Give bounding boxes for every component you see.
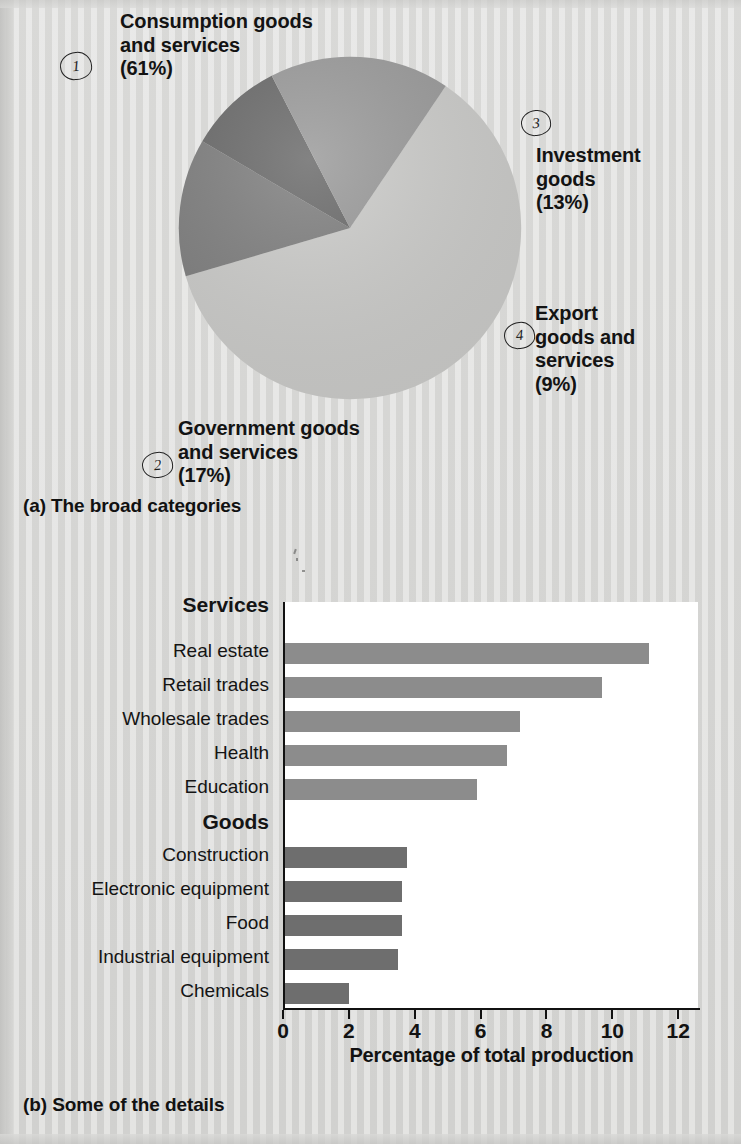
x-tick <box>480 1010 482 1019</box>
bar <box>283 915 402 936</box>
category-label: Real estate <box>173 640 277 662</box>
scan-speck <box>296 558 298 561</box>
pie-chart <box>178 56 523 401</box>
panel-b-caption: (b) Some of the details <box>23 1094 224 1116</box>
bar <box>283 745 507 766</box>
category-label: Food <box>226 912 277 934</box>
scan-speck <box>302 570 305 572</box>
x-tick-label: 6 <box>475 1019 487 1043</box>
bar <box>283 643 649 664</box>
bar <box>283 677 602 698</box>
scan-edge-top <box>0 0 741 8</box>
x-tick <box>414 1010 416 1019</box>
category-label: Industrial equipment <box>98 946 277 968</box>
category-label: Retail trades <box>162 674 277 696</box>
group-header-goods: Goods <box>203 810 278 834</box>
pie-label-export: Export goods and services (9%) <box>535 302 635 396</box>
x-tick-label: 0 <box>277 1019 289 1043</box>
x-tick <box>677 1010 679 1019</box>
pie-label-government: Government goods and services (17%) <box>178 417 360 488</box>
x-tick <box>348 1010 350 1019</box>
bar-chart-category-labels: ServicesReal estateRetail tradesWholesal… <box>0 602 277 1010</box>
bar-chart-x-axis <box>283 1008 700 1010</box>
bar <box>283 881 402 902</box>
x-tick-label: 8 <box>541 1019 553 1043</box>
pie-chart-svg <box>178 56 523 401</box>
x-tick-label: 12 <box>667 1019 690 1043</box>
bar <box>283 711 520 732</box>
pie-shading <box>179 57 521 399</box>
category-label: Wholesale trades <box>122 708 277 730</box>
bar <box>283 847 407 868</box>
bar <box>283 949 398 970</box>
panel-a-caption: (a) The broad categories <box>23 495 241 517</box>
pie-label-investment: Investment goods (13%) <box>536 144 641 215</box>
bar-chart-x-axis-title: Percentage of total production <box>283 1044 700 1067</box>
x-tick <box>611 1010 613 1019</box>
pie-label-consumption: Consumption goods and services (61%) <box>120 10 313 81</box>
x-tick-label: 10 <box>601 1019 624 1043</box>
x-tick <box>545 1010 547 1019</box>
category-label: Electronic equipment <box>92 878 277 900</box>
scan-edge-bottom <box>0 1134 741 1144</box>
category-label: Education <box>184 776 277 798</box>
bar-chart-plot-area <box>283 602 698 1010</box>
category-label: Chemicals <box>180 980 277 1002</box>
x-tick-label: 2 <box>343 1019 355 1043</box>
bar <box>283 779 477 800</box>
group-header-services: Services <box>183 593 277 617</box>
bar <box>283 983 349 1004</box>
x-tick-label: 4 <box>409 1019 421 1043</box>
category-label: Construction <box>162 844 277 866</box>
x-tick <box>282 1010 284 1019</box>
category-label: Health <box>214 742 277 764</box>
bar-chart-y-axis <box>283 602 285 1010</box>
